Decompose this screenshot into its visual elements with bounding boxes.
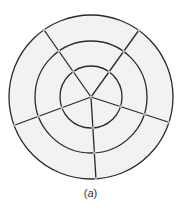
node-top-left-middle	[57, 50, 60, 53]
node-top-right-outer	[137, 29, 140, 32]
caption-close: )	[94, 187, 98, 199]
node-top-right-middle	[122, 50, 125, 53]
node-top-right-inner	[108, 70, 111, 73]
node-left-inner	[61, 106, 64, 109]
node-right-inner	[119, 105, 122, 108]
node-bottom-outer	[95, 177, 98, 180]
node-top-left-inner	[72, 70, 75, 73]
node-bottom-inner	[91, 127, 94, 130]
node-top-left-outer	[43, 28, 46, 31]
node-left-middle	[37, 115, 40, 118]
node-bottom-middle	[93, 151, 96, 154]
node-right-middle	[143, 113, 146, 116]
figure-caption: (a)	[0, 187, 181, 199]
node-right-outer	[168, 121, 171, 124]
polar-web-diagram	[0, 0, 181, 210]
center-node	[90, 96, 93, 99]
node-left-outer	[13, 124, 16, 127]
